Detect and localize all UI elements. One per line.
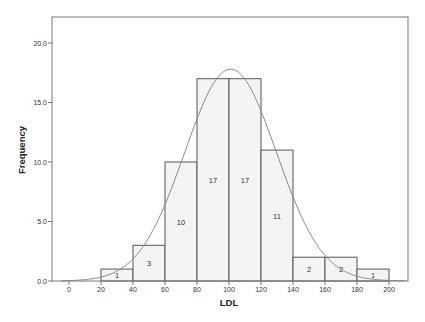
x-tick-label: 180 xyxy=(351,286,363,293)
x-tick-label: 200 xyxy=(383,286,395,293)
x-tick-label: 0 xyxy=(67,286,71,293)
y-tick-label: 0.0 xyxy=(37,278,47,285)
x-tick-label: 20 xyxy=(97,286,105,293)
x-tick-label: 40 xyxy=(129,286,137,293)
bar-count-label: 17 xyxy=(241,176,249,185)
x-tick-label: 80 xyxy=(193,286,201,293)
y-tick-label: 15.0 xyxy=(33,99,47,106)
bar-count-label: 17 xyxy=(209,176,217,185)
y-tick-label: 20.0 xyxy=(33,40,47,47)
x-axis-title: LDL xyxy=(220,297,239,308)
y-tick-label: 10.0 xyxy=(33,159,47,166)
bar-count-label: 1 xyxy=(371,271,375,280)
bar-count-label: 2 xyxy=(307,265,311,274)
y-axis-title: Frequency xyxy=(16,125,27,174)
y-axis: 0.05.010.015.020.0 xyxy=(33,40,52,285)
bar-count-label: 3 xyxy=(147,259,151,268)
x-tick-label: 60 xyxy=(161,286,169,293)
x-tick-label: 160 xyxy=(319,286,331,293)
bar-count-label: 1 xyxy=(115,271,119,280)
histogram-chart: 0.05.010.015.020.0 020406080100120140160… xyxy=(0,0,425,322)
bar-count-label: 10 xyxy=(177,218,185,227)
y-tick-label: 5.0 xyxy=(37,218,47,225)
x-tick-label: 100 xyxy=(223,286,235,293)
bar-count-label: 11 xyxy=(273,212,281,221)
bar-count-label: 2 xyxy=(339,265,343,274)
x-tick-label: 120 xyxy=(255,286,267,293)
x-tick-label: 140 xyxy=(287,286,299,293)
x-axis: 020406080100120140160180200 xyxy=(67,281,395,293)
